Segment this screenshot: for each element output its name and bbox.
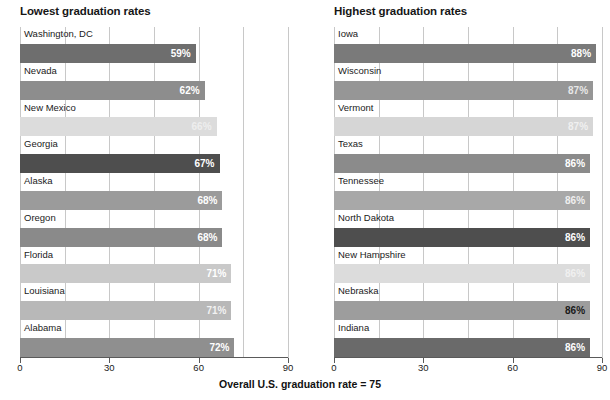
bar-category-label: Alaska [24, 174, 53, 188]
bar-row[interactable]: Oregon68% [20, 211, 288, 248]
bar-category-label: Washington, DC [24, 27, 93, 41]
bar-row[interactable]: Indiana86% [334, 321, 602, 358]
bar-row[interactable]: Washington, DC59% [20, 27, 288, 64]
bar[interactable]: 67% [20, 154, 220, 173]
bar-value-label: 62% [180, 81, 200, 100]
bar-value-label: 86% [565, 264, 585, 283]
bar-value-label: 71% [206, 301, 226, 320]
bar-row[interactable]: Alaska68% [20, 174, 288, 211]
bar-row[interactable]: Alabama72% [20, 321, 288, 358]
x-axis-tick-label: 30 [418, 362, 429, 373]
bar-category-label: Georgia [24, 137, 58, 151]
bar-category-label: Vermont [338, 101, 373, 115]
bar-value-label: 68% [197, 191, 217, 210]
bar-row[interactable]: Wisconsin87% [334, 64, 602, 101]
bar-category-label: Oregon [24, 211, 56, 225]
bar[interactable]: 71% [20, 264, 231, 283]
x-axis-line [20, 357, 288, 359]
bar-value-label: 87% [568, 81, 588, 100]
bar-row[interactable]: Tennessee86% [334, 174, 602, 211]
bar[interactable]: 68% [20, 228, 222, 247]
panel-lowest-graduation-rates: Lowest graduation rates Washington, DC59… [14, 0, 296, 400]
bar-row[interactable]: Iowa88% [334, 27, 602, 64]
bar-row[interactable]: North Dakota86% [334, 211, 602, 248]
bar-category-label: Alabama [24, 321, 62, 335]
bar-value-label: 68% [197, 228, 217, 247]
x-axis-tick-label: 60 [193, 362, 204, 373]
x-axis-tick-label: 0 [331, 362, 336, 373]
bar-value-label: 72% [209, 338, 229, 357]
bar-row[interactable]: Florida71% [20, 248, 288, 285]
bar-row[interactable]: New Mexico66% [20, 101, 288, 138]
bar[interactable]: 86% [334, 301, 590, 320]
bar-category-label: Tennessee [338, 174, 384, 188]
bar-category-label: Wisconsin [338, 64, 381, 78]
bar[interactable]: 62% [20, 81, 205, 100]
panel-highest-graduation-rates: Highest graduation rates Iowa88%Wisconsi… [328, 0, 610, 400]
bar-category-label: Nebraska [338, 284, 379, 298]
overall-rate-note: Overall U.S. graduation rate = 75 [0, 378, 600, 390]
bar[interactable]: 66% [20, 117, 217, 136]
bar-category-label: Louisiana [24, 284, 65, 298]
x-axis-tick-label: 90 [597, 362, 608, 373]
x-axis-tick-label: 90 [283, 362, 294, 373]
bar[interactable]: 68% [20, 191, 222, 210]
bar-category-label: New Hampshire [338, 248, 406, 262]
bar[interactable]: 87% [334, 117, 593, 136]
bar-value-label: 71% [206, 264, 226, 283]
bar-value-label: 86% [565, 301, 585, 320]
bar[interactable]: 71% [20, 301, 231, 320]
x-axis-tick-label: 30 [104, 362, 115, 373]
bar-row[interactable]: Vermont87% [334, 101, 602, 138]
bar-row[interactable]: Nebraska86% [334, 284, 602, 321]
bar-value-label: 86% [565, 338, 585, 357]
bar-row[interactable]: Louisiana71% [20, 284, 288, 321]
bar[interactable]: 59% [20, 44, 196, 63]
bar-category-label: New Mexico [24, 101, 76, 115]
bar-value-label: 87% [568, 117, 588, 136]
bar[interactable]: 86% [334, 228, 590, 247]
bar-value-label: 86% [565, 228, 585, 247]
bar-value-label: 66% [192, 117, 212, 136]
bar-category-label: Indiana [338, 321, 369, 335]
panel-title-lowest: Lowest graduation rates [20, 5, 151, 17]
bar-value-label: 86% [565, 191, 585, 210]
panel-title-highest: Highest graduation rates [334, 5, 467, 17]
bar[interactable]: 72% [20, 338, 234, 357]
bar[interactable]: 86% [334, 191, 590, 210]
bar-value-label: 86% [565, 154, 585, 173]
x-axis-tick-label: 60 [507, 362, 518, 373]
plot-area-highest: Iowa88%Wisconsin87%Vermont87%Texas86%Ten… [334, 27, 602, 358]
bar-category-label: Nevada [24, 64, 57, 78]
bar-category-label: Texas [338, 137, 363, 151]
bar[interactable]: 86% [334, 154, 590, 173]
bar-category-label: Iowa [338, 27, 358, 41]
x-axis-line [334, 357, 602, 359]
bar-value-label: 88% [571, 44, 591, 63]
plot-area-lowest: Washington, DC59%Nevada62%New Mexico66%G… [20, 27, 288, 358]
bar-category-label: North Dakota [338, 211, 394, 225]
bar-row[interactable]: Texas86% [334, 137, 602, 174]
x-axis-tick-label: 0 [17, 362, 22, 373]
bar-row[interactable]: New Hampshire86% [334, 248, 602, 285]
gridline-90 [602, 27, 603, 358]
bar-category-label: Florida [24, 248, 53, 262]
bar[interactable]: 87% [334, 81, 593, 100]
bar[interactable]: 88% [334, 44, 596, 63]
gridline-90 [288, 27, 289, 358]
bar-row[interactable]: Nevada62% [20, 64, 288, 101]
bar[interactable]: 86% [334, 338, 590, 357]
bar-value-label: 67% [194, 154, 214, 173]
bar[interactable]: 86% [334, 264, 590, 283]
bar-value-label: 59% [171, 44, 191, 63]
bar-row[interactable]: Georgia67% [20, 137, 288, 174]
